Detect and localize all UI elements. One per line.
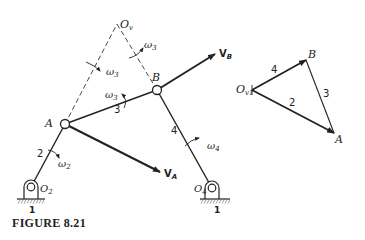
- ground-label-1b: 1: [214, 205, 220, 215]
- ground-label-1a: 1: [29, 205, 35, 215]
- omega-4-label: ω4: [207, 140, 220, 153]
- polygon-side-3: 3: [323, 88, 329, 99]
- polygon-origin-label: Ov1: [236, 83, 253, 97]
- omega-2-label: ω2: [58, 158, 71, 171]
- label-ov: Ov: [120, 18, 133, 32]
- label-a: A: [44, 117, 53, 130]
- mechanism-diagram: Ov A B O2 O4 2 3 4 1 1 ω2 ω3 ω3 ω3 ω4 VB…: [0, 0, 365, 240]
- omega-3-label-right: ω3: [144, 39, 157, 52]
- polygon-vertex-a: A: [334, 133, 343, 146]
- link-label-2: 2: [37, 148, 43, 159]
- label-b: B: [151, 71, 160, 84]
- omega-3-label-link: ω3: [105, 89, 118, 102]
- polygon-side-2: 2: [289, 97, 295, 108]
- va-label: VA: [164, 168, 177, 181]
- link-label-3: 3: [114, 104, 120, 115]
- label-o4: O4: [194, 183, 207, 196]
- link-label-4: 4: [171, 125, 177, 136]
- vb-label: VB: [219, 48, 232, 61]
- polygon-vertex-b: B: [307, 48, 316, 61]
- joint-a: [61, 120, 70, 129]
- joint-b: [153, 86, 162, 95]
- figure-caption: FIGURE 8.21: [12, 216, 86, 231]
- polygon-side-4: 4: [271, 64, 277, 75]
- velocity-vector-vb: [157, 54, 215, 90]
- omega-3-label-left: ω3: [106, 66, 119, 79]
- label-o2: O2: [40, 183, 53, 196]
- velocity-vector-va: [65, 124, 160, 172]
